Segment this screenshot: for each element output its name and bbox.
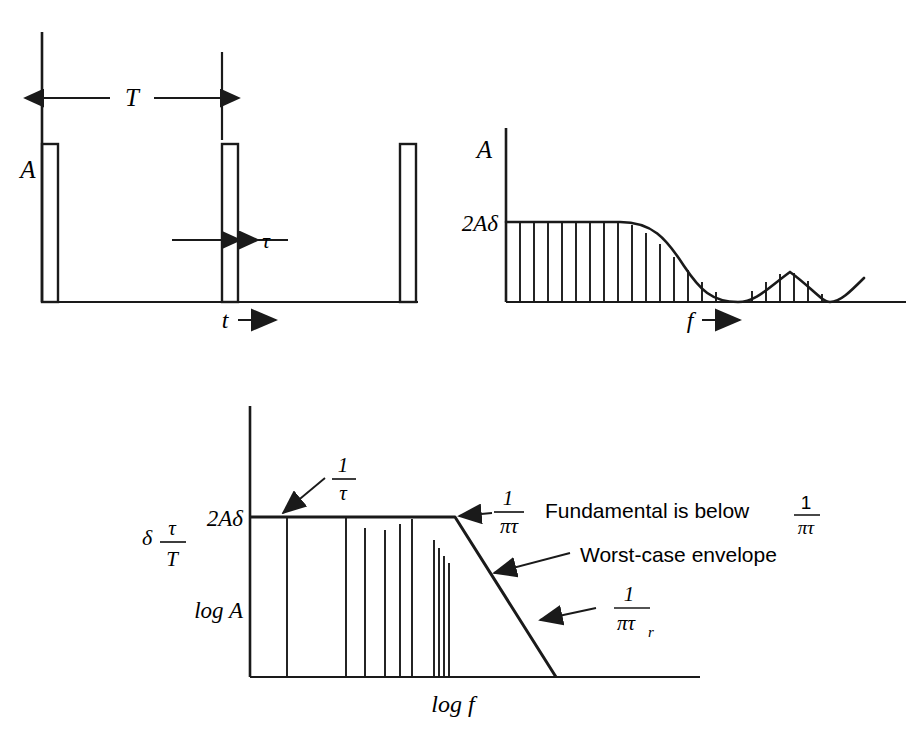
panel-log-envelope: δ τ T 2Aδ log A 1 τ (142, 406, 820, 717)
worst-case-envelope-line (250, 517, 556, 677)
annotation-1-over-pi-tau-r-denominator: πτ (617, 611, 637, 635)
annotation-worst-case-arrow (494, 553, 570, 573)
spectrum-harmonic-lines (520, 222, 822, 302)
panel-time-domain: T A τ t (18, 32, 418, 333)
annotation-1-over-pi-tau-r-arrow (540, 608, 596, 620)
pulse-3 (400, 144, 416, 302)
annotation-1-over-tau-denominator: τ (339, 481, 348, 505)
delta-numerator: τ (168, 516, 177, 540)
annotation-worst-case-text: Worst-case envelope (580, 543, 777, 566)
delta-definition: δ τ T (142, 516, 186, 571)
annotation-1-over-pi-tau-denominator: πτ (500, 514, 520, 538)
tau-label: τ (262, 228, 271, 253)
log-y-tick-label: 2Aδ (207, 506, 244, 531)
annotation-fundamental-denominator: πτ (798, 517, 816, 538)
spectrum-y-tick-label: 2Aδ (462, 211, 499, 236)
annotation-fundamental-text: Fundamental is below (545, 499, 750, 522)
figure-container: T A τ t A 2Aδ (0, 0, 914, 736)
annotation-fundamental: Fundamental is below 1 πτ (545, 492, 820, 538)
pulse-spectrum-figure: T A τ t A 2Aδ (0, 0, 914, 736)
log-harmonic-lines (287, 517, 449, 677)
annotation-fundamental-numerator: 1 (801, 492, 812, 513)
pulse-1 (42, 144, 58, 302)
time-amplitude-label: A (18, 156, 36, 183)
panel-spectrum: A 2Aδ f (462, 128, 906, 333)
annotation-1-over-pi-tau-r-subscript: r (648, 624, 654, 640)
delta-symbol: δ (142, 525, 153, 550)
annotation-1-over-pi-tau-r: 1 πτ r (540, 582, 654, 640)
annotation-1-over-pi-tau: 1 πτ (459, 486, 524, 538)
period-label: T (125, 84, 141, 111)
annotation-1-over-pi-tau-r-numerator: 1 (624, 582, 635, 606)
annotation-1-over-tau-numerator: 1 (338, 453, 349, 477)
annotation-1-over-tau-arrow (283, 478, 325, 513)
annotation-worst-case: Worst-case envelope (494, 543, 777, 573)
annotation-1-over-pi-tau-numerator: 1 (503, 486, 514, 510)
frequency-axis-label: f (687, 307, 697, 333)
log-y-axis-label: log A (194, 598, 244, 623)
log-x-axis-label: log f (431, 691, 478, 717)
annotation-1-over-tau: 1 τ (283, 453, 356, 513)
spectrum-amplitude-label: A (475, 136, 493, 163)
sinc-envelope-curve (506, 222, 864, 302)
delta-denominator: T (166, 547, 179, 571)
time-axis-label: t (222, 307, 230, 333)
pulse-2 (222, 144, 238, 302)
annotation-1-over-pi-tau-arrow (459, 513, 492, 516)
